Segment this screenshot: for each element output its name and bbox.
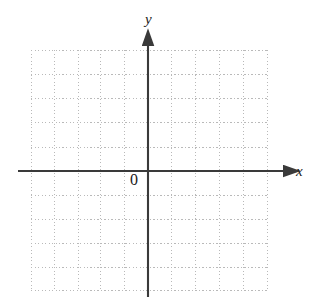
coordinate-plane-figure: x y 0 xyxy=(0,0,318,300)
coordinate-plane-svg xyxy=(0,0,318,300)
origin-label: 0 xyxy=(130,172,138,188)
x-axis-label: x xyxy=(296,164,303,179)
y-axis-label: y xyxy=(145,12,152,27)
axes xyxy=(18,45,284,297)
